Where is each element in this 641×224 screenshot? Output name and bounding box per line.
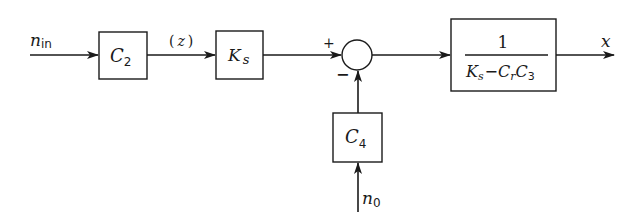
block-ks: Ks (216, 31, 263, 79)
block-plant: 1 Ks−CrC3 (451, 19, 556, 91)
input-label: nin (30, 30, 52, 51)
output-label: x (601, 31, 611, 51)
plant-numerator: 1 (498, 32, 509, 52)
minus-sign: − (336, 65, 349, 84)
block-c4: C4 (333, 113, 382, 162)
block-diagram: nin C2 (z) Ks + − 1 (0, 0, 641, 224)
disturbance-label: n0 (362, 188, 381, 210)
plant-denominator: Ks−CrC3 (465, 62, 535, 83)
diagram-svg: nin C2 (z) Ks + − 1 (0, 0, 641, 224)
intermediate-label: (z) (169, 33, 193, 49)
block-c2: C2 (99, 32, 147, 79)
plus-sign: + (323, 35, 335, 51)
